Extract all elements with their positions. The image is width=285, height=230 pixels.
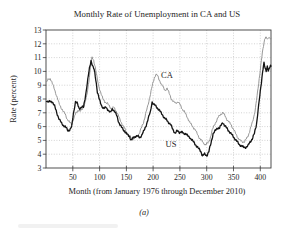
svg-text:50: 50 (69, 173, 77, 182)
svg-text:150: 150 (121, 173, 133, 182)
y-axis-label: Rate (percent) (9, 75, 18, 123)
svg-text:300: 300 (201, 173, 213, 182)
svg-text:9: 9 (38, 81, 42, 90)
x-axis-label: Month (from January 1976 through Decembe… (69, 187, 246, 196)
svg-text:200: 200 (147, 173, 159, 182)
svg-text:8: 8 (38, 95, 42, 104)
x-ticks (73, 166, 260, 172)
y-ticks (43, 30, 46, 168)
svg-text:5: 5 (38, 136, 42, 145)
figure-panel: Monthly Rate of Unemployment in CA and U… (0, 0, 285, 230)
series-label-us: US (166, 139, 177, 149)
svg-text:250: 250 (174, 173, 186, 182)
svg-text:7: 7 (38, 109, 42, 118)
svg-text:100: 100 (94, 173, 106, 182)
svg-text:3: 3 (38, 164, 42, 173)
svg-text:11: 11 (34, 53, 42, 62)
chart-title: Monthly Rate of Unemployment in CA and U… (74, 9, 241, 19)
svg-text:6: 6 (38, 122, 42, 131)
subfigure-caption: (a) (139, 208, 149, 217)
x-tick-labels: 50100150200250300350400 (69, 173, 266, 182)
svg-text:10: 10 (34, 67, 42, 76)
cropped-caption-artifact (18, 224, 118, 228)
series-lines (47, 37, 272, 156)
svg-text:13: 13 (34, 26, 42, 35)
y-tick-labels: 345678910111213 (34, 26, 42, 173)
series-label-ca: CA (161, 70, 174, 80)
svg-text:350: 350 (228, 173, 240, 182)
svg-text:4: 4 (38, 150, 42, 159)
svg-text:12: 12 (34, 40, 42, 49)
svg-text:400: 400 (254, 173, 266, 182)
unemployment-chart: Monthly Rate of Unemployment in CA and U… (0, 0, 285, 230)
